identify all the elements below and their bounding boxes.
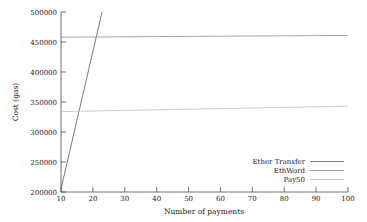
y-axis-title: Cost (gas) — [11, 83, 20, 122]
x-axis-tick-labels: 10 20 30 40 50 60 70 80 90 100 — [57, 195, 355, 203]
legend: Ether Transfer EthWord Pay50 — [252, 158, 344, 184]
y-axis-ticks — [61, 12, 66, 192]
gas-cost-line-chart: 200000 250000 300000 350000 400000 45000… — [0, 0, 367, 222]
x-axis-title: Number of payments — [164, 207, 244, 216]
y-tick-label: 200000 — [30, 189, 57, 197]
x-tick-label: 10 — [57, 195, 66, 203]
legend-label-pay50: Pay50 — [284, 176, 305, 184]
x-tick-label: 50 — [184, 195, 193, 203]
y-tick-label: 450000 — [30, 39, 57, 47]
y-axis-tick-labels: 200000 250000 300000 350000 400000 45000… — [30, 9, 57, 197]
y-tick-label: 500000 — [30, 9, 57, 17]
y-tick-label: 250000 — [30, 159, 57, 167]
x-tick-label: 30 — [120, 195, 129, 203]
legend-label-ether-transfer: Ether Transfer — [252, 158, 305, 166]
x-tick-label: 100 — [341, 195, 354, 203]
y-tick-label: 350000 — [30, 99, 57, 107]
x-tick-label: 90 — [312, 195, 321, 203]
x-tick-label: 80 — [280, 195, 289, 203]
x-tick-label: 40 — [152, 195, 161, 203]
x-tick-label: 20 — [88, 195, 97, 203]
series-line-ethword — [61, 35, 348, 37]
legend-label-ethword: EthWord — [274, 167, 306, 175]
x-tick-label: 70 — [248, 195, 257, 203]
y-tick-label: 400000 — [30, 69, 57, 77]
x-axis-ticks — [61, 187, 348, 192]
x-tick-label: 60 — [216, 195, 225, 203]
series-line-pay50 — [61, 106, 348, 111]
plot-canvas: 200000 250000 300000 350000 400000 45000… — [0, 0, 367, 222]
y-tick-label: 300000 — [30, 129, 57, 137]
